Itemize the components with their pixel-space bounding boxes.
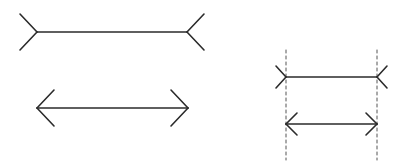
arrowhead-left-top [286, 113, 297, 124]
arrows-in-left [37, 90, 188, 126]
fins-out-right [276, 66, 387, 88]
arrowhead-right-bottom [366, 124, 377, 135]
arrowhead-left-top [37, 90, 54, 108]
arrowhead-left-bottom [286, 124, 297, 135]
arrowhead-right-bottom [171, 108, 188, 126]
line-figures [20, 14, 387, 135]
dashed-guide-lines [286, 50, 377, 160]
diagram-canvas [0, 0, 409, 166]
fin-left-bottom [276, 77, 286, 88]
fin-left-top [276, 66, 286, 77]
arrowhead-left-bottom [37, 108, 54, 126]
fin-left-bottom [20, 32, 37, 50]
arrowhead-right-top [366, 113, 377, 124]
fin-right-top [187, 14, 204, 32]
fin-right-top [377, 66, 387, 77]
fins-out-left [20, 14, 204, 50]
muller-lyer-diagram: Müller-Lyer illusion [0, 0, 409, 166]
fin-right-bottom [187, 32, 204, 50]
arrows-in-right [286, 113, 377, 135]
fin-left-top [20, 14, 37, 32]
fin-right-bottom [377, 77, 387, 88]
arrowhead-right-top [171, 90, 188, 108]
